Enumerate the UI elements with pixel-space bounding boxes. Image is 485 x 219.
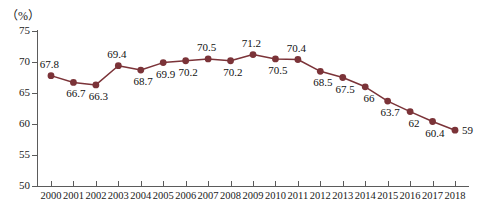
y-tick-label-75: 75: [2, 25, 30, 36]
data-label-2017: 60.4: [425, 128, 444, 139]
data-point-2017: [429, 118, 436, 125]
data-point-2006: [182, 57, 189, 64]
data-point-2015: [384, 98, 391, 105]
data-point-2010: [272, 56, 279, 63]
y-tick-70: [32, 62, 37, 63]
x-axis-line: [37, 186, 469, 187]
x-tick-2017: [433, 181, 434, 186]
x-tick-2002: [96, 181, 97, 186]
x-tick-2000: [51, 181, 52, 186]
data-label-2002: 66.3: [89, 91, 108, 102]
data-label-2008: 70.2: [223, 67, 242, 78]
y-tick-60: [32, 124, 37, 125]
x-tick-2014: [365, 181, 366, 186]
data-label-2009: 71.2: [242, 38, 261, 49]
y-tick-label-60: 60: [2, 118, 30, 129]
x-tick-2006: [186, 181, 187, 186]
x-tick-2007: [208, 181, 209, 186]
data-label-2018: 59: [462, 125, 473, 136]
data-label-2007: 70.5: [197, 42, 216, 53]
y-tick-75: [32, 31, 37, 32]
x-tick-2003: [118, 181, 119, 186]
data-label-2011: 70.4: [287, 43, 306, 54]
data-point-2016: [407, 108, 414, 115]
data-point-2009: [250, 51, 257, 58]
x-tick-2013: [343, 181, 344, 186]
y-axis-unit-label: （%）: [6, 6, 40, 24]
x-tick-2009: [253, 181, 254, 186]
data-point-2005: [160, 59, 167, 66]
data-point-2018: [452, 127, 459, 134]
data-label-2005: 69.9: [156, 69, 175, 80]
x-tick-2011: [298, 181, 299, 186]
x-tick-2018: [455, 181, 456, 186]
data-label-2003: 69.4: [107, 49, 126, 60]
x-tick-2008: [231, 181, 232, 186]
x-tick-2015: [388, 181, 389, 186]
data-point-2000: [48, 72, 55, 79]
y-tick-label-65: 65: [2, 87, 30, 98]
data-label-2014: 66: [364, 93, 375, 104]
data-point-2004: [137, 67, 144, 74]
data-label-2001: 66.7: [66, 88, 85, 99]
data-label-2010: 70.5: [268, 65, 287, 76]
data-label-2006: 70.2: [178, 67, 197, 78]
data-point-2001: [70, 79, 77, 86]
y-axis-line: [37, 30, 38, 187]
data-label-2016: 62: [409, 118, 420, 129]
data-label-2015: 63.7: [380, 107, 399, 118]
data-point-2011: [294, 56, 301, 63]
y-tick-label-50: 50: [2, 180, 30, 191]
data-label-2004: 68.7: [134, 76, 153, 87]
data-point-2012: [317, 68, 324, 75]
data-point-2008: [227, 57, 234, 64]
data-point-2013: [339, 74, 346, 81]
x-tick-2004: [141, 181, 142, 186]
y-tick-50: [32, 186, 37, 187]
data-label-2013: 67.5: [336, 84, 355, 95]
data-label-2000: 67.8: [40, 59, 59, 70]
series-path: [51, 55, 455, 131]
line-chart: （%） 757065605550 20002001200220032004200…: [0, 0, 485, 219]
x-tick-2012: [320, 181, 321, 186]
data-point-2007: [205, 56, 212, 63]
y-tick-label-55: 55: [2, 149, 30, 160]
y-tick-55: [32, 155, 37, 156]
x-tick-2016: [410, 181, 411, 186]
y-tick-label-70: 70: [2, 56, 30, 67]
y-tick-65: [32, 93, 37, 94]
data-point-2014: [362, 83, 369, 90]
data-point-2003: [115, 62, 122, 69]
data-label-2012: 68.5: [313, 77, 332, 88]
x-tick-2005: [163, 181, 164, 186]
x-tick-2010: [275, 181, 276, 186]
x-tick-label-2018: 2018: [440, 190, 470, 202]
x-tick-2001: [73, 181, 74, 186]
data-point-2002: [92, 82, 99, 89]
